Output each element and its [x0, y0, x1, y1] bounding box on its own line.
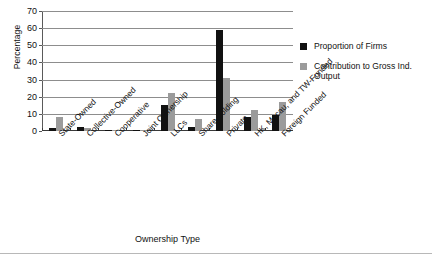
legend-label: Proportion of Firms: [314, 41, 387, 52]
y-axis-tick-label: 60: [27, 23, 37, 33]
bar-group: [42, 11, 70, 131]
bar: [105, 130, 112, 131]
y-axis-tick-label: 0: [32, 126, 37, 136]
chart-legend: Proportion of FirmsContribution to Gross…: [300, 41, 432, 91]
y-axis-tick-label: 30: [27, 75, 37, 85]
bar-chart-figure: Percentage 010203040506070 State-OwnedCo…: [0, 0, 432, 264]
x-axis-tick-labels: State-OwnedCollective-OwnedCooperativeJo…: [42, 132, 293, 228]
legend-swatch-icon: [300, 63, 307, 70]
legend-swatch-icon: [300, 43, 307, 50]
x-axis-title: Ownership Type: [42, 234, 293, 244]
legend-item: Contribution to Gross Ind. Output: [300, 61, 432, 82]
y-axis-tick-label: 50: [27, 40, 37, 50]
y-axis-title: Percentage: [12, 0, 22, 95]
bar: [188, 127, 195, 131]
y-axis-tick-label: 70: [27, 6, 37, 16]
bar: [133, 130, 140, 131]
footer-divider: [0, 253, 432, 254]
legend-item: Proportion of Firms: [300, 41, 432, 52]
y-axis-tick-label: 40: [27, 57, 37, 67]
bar-group: [181, 11, 209, 131]
x-axis-tick-mark: [42, 128, 43, 131]
bar: [49, 128, 56, 131]
y-axis-tick-label: 10: [27, 109, 37, 119]
legend-label: Contribution to Gross Ind. Output: [314, 61, 432, 82]
bar: [77, 127, 84, 131]
y-axis-tick-label: 20: [27, 92, 37, 102]
